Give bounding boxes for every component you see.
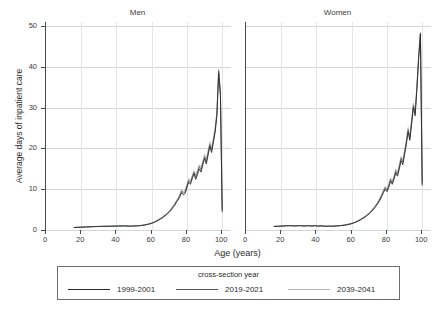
series-line-2019-2021 xyxy=(274,33,422,226)
y-gridline xyxy=(246,230,431,231)
x-tick-label: 100 xyxy=(407,235,435,244)
y-axis-title: Average days of inpatient care xyxy=(14,22,24,230)
x-tick xyxy=(221,230,222,234)
y-tick xyxy=(41,189,45,190)
y-tick-label: 10 xyxy=(11,184,37,193)
panel-title-men: Men xyxy=(45,8,230,17)
x-tick-label: 80 xyxy=(372,235,400,244)
x-tick-label: 80 xyxy=(172,235,200,244)
chart-canvas: Average days of inpatient care Men Women… xyxy=(0,0,446,314)
series-line-2039-2041 xyxy=(274,32,422,226)
x-tick xyxy=(315,230,316,234)
y-gridline xyxy=(46,230,231,231)
x-tick xyxy=(80,230,81,234)
x-axis-title: Age (years) xyxy=(45,248,430,258)
x-tick xyxy=(386,230,387,234)
x-tick xyxy=(421,230,422,234)
x-tick xyxy=(351,230,352,234)
y-tick xyxy=(41,148,45,149)
series-layer xyxy=(46,22,231,230)
y-tick-label: 50 xyxy=(11,21,37,30)
y-tick-label: 30 xyxy=(11,103,37,112)
y-tick-label: 0 xyxy=(11,225,37,234)
x-tick-label: 0 xyxy=(231,235,259,244)
series-layer xyxy=(246,22,431,230)
series-line-2019-2021 xyxy=(74,71,222,228)
legend-label: 2039-2041 xyxy=(337,285,375,294)
x-tick xyxy=(151,230,152,234)
series-line-1999-2001 xyxy=(74,73,222,228)
legend-swatch-icon xyxy=(68,289,110,291)
legend-swatch-icon xyxy=(176,289,218,291)
x-tick xyxy=(245,230,246,234)
legend-title: cross-section year xyxy=(58,270,399,279)
y-tick xyxy=(41,26,45,27)
legend-entry-1999-2001[interactable]: 1999-2001 xyxy=(68,285,155,294)
x-tick-label: 40 xyxy=(301,235,329,244)
legend-label: 2019-2021 xyxy=(225,285,263,294)
panel-title-women: Women xyxy=(245,8,430,17)
y-tick xyxy=(41,230,45,231)
y-tick xyxy=(41,108,45,109)
legend: cross-section year 1999-20012019-2021203… xyxy=(57,266,400,300)
x-tick-label: 60 xyxy=(337,235,365,244)
x-tick xyxy=(45,230,46,234)
x-tick xyxy=(186,230,187,234)
series-line-2039-2041 xyxy=(74,69,222,227)
legend-label: 1999-2001 xyxy=(117,285,155,294)
plot-area-women xyxy=(245,22,431,231)
legend-swatch-icon xyxy=(288,289,330,291)
x-tick-label: 60 xyxy=(137,235,165,244)
y-tick-label: 40 xyxy=(11,62,37,71)
x-tick-label: 20 xyxy=(66,235,94,244)
plot-area-men xyxy=(45,22,231,231)
x-tick-label: 20 xyxy=(266,235,294,244)
x-tick xyxy=(115,230,116,234)
series-line-1999-2001 xyxy=(274,34,422,226)
x-tick-label: 0 xyxy=(31,235,59,244)
legend-entry-2019-2021[interactable]: 2019-2021 xyxy=(176,285,263,294)
x-tick xyxy=(280,230,281,234)
y-tick xyxy=(41,67,45,68)
y-tick-label: 20 xyxy=(11,143,37,152)
x-tick-label: 40 xyxy=(101,235,129,244)
legend-entry-2039-2041[interactable]: 2039-2041 xyxy=(288,285,375,294)
